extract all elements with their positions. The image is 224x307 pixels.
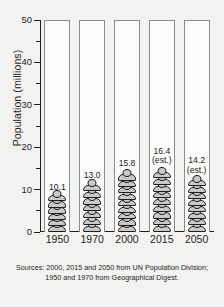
person-figure-icon — [118, 186, 136, 193]
person-figure-icon — [188, 205, 206, 213]
bar-value-label-2000: 15.8 — [119, 159, 136, 168]
bar-column-2000[interactable] — [114, 20, 140, 232]
source-note-line-1: Sources: 2000, 2015 and 2050 from UN Pop… — [6, 263, 218, 273]
person-figure-icon — [153, 184, 171, 192]
person-figure-icon — [118, 212, 136, 219]
person-head — [88, 179, 97, 187]
y-tick-label-10: 10 — [6, 185, 32, 195]
bar-1970 — [83, 177, 101, 232]
person-figure-icon — [188, 179, 206, 187]
x-axis-label-2015: 2015 — [149, 234, 175, 245]
source-note: Sources: 2000, 2015 and 2050 from UN Pop… — [6, 263, 218, 284]
person-figure-icon — [153, 224, 171, 232]
person-figure-icon — [48, 219, 66, 226]
person-figure-icon — [188, 198, 206, 206]
person-figure-icon — [83, 204, 101, 212]
x-axis-label-2050: 2050 — [184, 234, 210, 245]
person-figure-icon — [153, 171, 171, 179]
person-figure-icon — [48, 225, 66, 232]
x-axis-label-1970: 1970 — [79, 234, 105, 245]
y-tick-label-40: 40 — [6, 57, 32, 67]
person-figure-icon — [153, 191, 171, 199]
person-figure-icon — [83, 197, 101, 205]
bar-1950 — [48, 189, 66, 232]
population-chart-figure: Population (millions) 01020304050 10.113… — [0, 0, 224, 307]
person-figure-icon — [153, 204, 171, 212]
bar-value-number: 15.8 — [119, 159, 136, 168]
person-figure-icon — [153, 177, 171, 185]
person-head — [192, 175, 201, 183]
person-figure-icon — [83, 183, 101, 191]
person-figure-icon — [188, 224, 206, 232]
person-figure-icon — [153, 197, 171, 205]
bar-value-label-1970: 13.0 — [84, 171, 101, 180]
person-figure-icon — [48, 200, 66, 207]
bar-value-number: 10.1 — [49, 183, 66, 192]
plot-area: 10.113.015.816.4(est.)14.2(est.) — [40, 20, 214, 232]
person-figure-icon — [83, 217, 101, 225]
person-figure-icon — [118, 173, 136, 180]
bar-column-2050[interactable] — [184, 20, 210, 232]
person-figure-icon — [83, 190, 101, 198]
person-figure-icon — [188, 185, 206, 193]
x-axis-label-2000: 2000 — [114, 234, 140, 245]
person-figure-icon — [83, 224, 101, 232]
source-note-line-2: 1950 and 1970 from Geographical Digest. — [6, 273, 218, 283]
person-figure-icon — [118, 225, 136, 232]
bar-2050 — [188, 172, 206, 232]
person-figure-icon — [188, 211, 206, 219]
person-head — [123, 169, 132, 177]
bar-2015 — [153, 162, 171, 232]
person-figure-icon — [188, 218, 206, 226]
person-figure-icon — [118, 192, 136, 199]
person-figure-icon — [48, 207, 66, 214]
bar-value-label-1950: 10.1 — [49, 183, 66, 192]
person-figure-icon — [188, 192, 206, 200]
person-figure-icon — [118, 199, 136, 206]
bar-2000 — [118, 165, 136, 232]
y-tick-label-20: 20 — [6, 142, 32, 152]
y-tick-label-0: 0 — [6, 227, 32, 237]
person-figure-icon — [153, 218, 171, 226]
person-figure-icon — [153, 211, 171, 219]
y-tick-label-50: 50 — [6, 15, 32, 25]
person-figure-icon — [48, 194, 66, 201]
person-figure-icon — [48, 213, 66, 220]
bar-value-number: 13.0 — [84, 171, 101, 180]
bar-column-2015[interactable] — [149, 20, 175, 232]
person-head — [157, 167, 166, 175]
person-figure-icon — [118, 218, 136, 225]
y-tick-label-30: 30 — [6, 100, 32, 110]
person-figure-icon — [118, 180, 136, 187]
bar-value-label-2015: 16.4(est.) — [152, 147, 172, 166]
bar-value-estimate-note: (est.) — [152, 156, 172, 165]
person-figure-icon — [83, 210, 101, 218]
bar-value-label-2050: 14.2(est.) — [187, 156, 207, 175]
bar-column-1970[interactable] — [79, 20, 105, 232]
bar-column-1950[interactable] — [44, 20, 70, 232]
person-figure-icon — [118, 205, 136, 212]
bar-value-estimate-note: (est.) — [187, 166, 207, 175]
x-axis-label-1950: 1950 — [44, 234, 70, 245]
